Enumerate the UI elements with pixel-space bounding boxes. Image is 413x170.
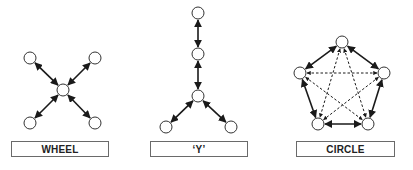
circle-edge-t-l (306, 46, 337, 69)
circle-node-bl (312, 118, 324, 130)
circle-edge-r-bl (324, 77, 379, 119)
circle-label: CIRCLE (296, 141, 395, 157)
wheel-node-tl (24, 52, 36, 64)
circle-edge-r-br (370, 80, 382, 118)
circle-edge-t-bl (320, 49, 340, 118)
wheel-edge-tr-c (68, 63, 90, 85)
wheel-edge-bl-c (35, 95, 58, 118)
circle-node-l (294, 67, 306, 79)
y-network (160, 7, 237, 133)
y-node-mid (192, 48, 204, 60)
wheel-node-c (57, 84, 69, 96)
y-edge-j-bl (171, 101, 193, 122)
circle-edge-t-br (344, 49, 366, 118)
wheel-node-br (89, 117, 101, 129)
wheel-node-tr (89, 52, 101, 64)
wheel-edge-br-c (68, 95, 90, 118)
y-edge-j-br (203, 101, 226, 122)
circle-node-br (362, 118, 374, 130)
circle-node-t (336, 36, 348, 48)
circle-node-r (378, 67, 390, 79)
y-node-top (192, 7, 204, 19)
y-label: ‘Y’ (150, 141, 248, 157)
y-node-bl (160, 121, 172, 133)
wheel-node-bl (24, 117, 36, 129)
circle-edge-t-r (348, 46, 379, 69)
wheel-edge-tl-c (35, 63, 58, 85)
wheel-network (24, 52, 101, 129)
y-node-br (225, 121, 237, 133)
wheel-label: WHEEL (11, 141, 109, 157)
circle-edge-l-bl (302, 80, 315, 118)
circle-network (294, 36, 390, 130)
y-node-j (192, 90, 204, 102)
